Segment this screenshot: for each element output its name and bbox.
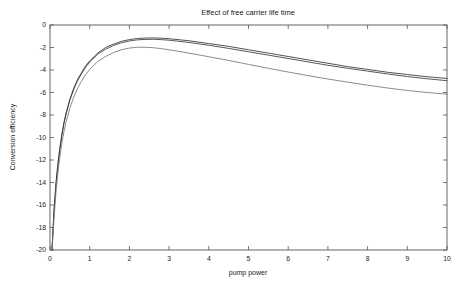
y-tick-label: -10: [36, 134, 46, 141]
y-tick-label: -6: [40, 89, 46, 96]
line-chart: Effect of free carrier life time 0123456…: [0, 0, 470, 295]
x-tick-label: 6: [286, 255, 290, 262]
y-tick-label: -8: [40, 111, 46, 118]
x-tick-label: 7: [326, 255, 330, 262]
y-axis-label: Conversion efficiency: [9, 103, 17, 170]
y-tick-label: 0: [42, 21, 46, 28]
x-tick-label: 4: [207, 255, 211, 262]
y-tick-label: -18: [36, 224, 46, 231]
chart-figure: Effect of free carrier life time 0123456…: [0, 0, 470, 295]
x-tick-label: 1: [88, 255, 92, 262]
x-tick-label: 5: [247, 255, 251, 262]
x-tick-label: 9: [405, 255, 409, 262]
y-tick-label: -16: [36, 201, 46, 208]
x-tick-label: 0: [48, 255, 52, 262]
y-tick-label: -2: [40, 44, 46, 51]
y-tick-label: -20: [36, 246, 46, 253]
y-tick-label: -12: [36, 156, 46, 163]
x-tick-label: 2: [128, 255, 132, 262]
chart-title: Effect of free carrier life time: [201, 8, 295, 17]
x-tick-label: 8: [366, 255, 370, 262]
chart-background: [0, 0, 470, 295]
y-tick-label: -4: [40, 66, 46, 73]
x-tick-label: 10: [443, 255, 451, 262]
x-tick-label: 3: [167, 255, 171, 262]
x-axis-label: pump power: [229, 269, 268, 277]
y-tick-label: -14: [36, 179, 46, 186]
